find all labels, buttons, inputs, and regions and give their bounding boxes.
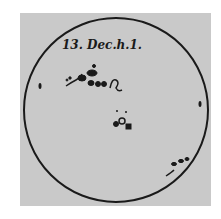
sunspot-group-lower-right [166,158,189,177]
sunspot-group-center [114,110,132,129]
date-label: 13. Dec.h.1. [62,38,142,52]
sunspot-group-upper-left [66,65,122,91]
sun-disk-drawing: 13. Dec.h.1. [0,0,221,219]
limb-spots [39,83,202,107]
